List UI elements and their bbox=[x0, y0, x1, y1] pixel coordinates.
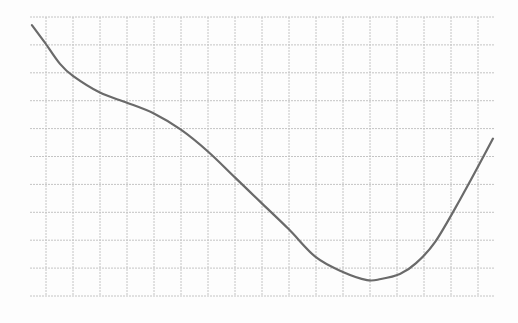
line-chart bbox=[0, 0, 518, 323]
figure bbox=[0, 0, 518, 323]
